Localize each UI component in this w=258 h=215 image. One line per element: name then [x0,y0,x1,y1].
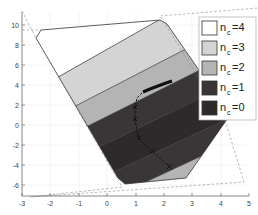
x-tick: -3 [19,200,25,207]
legend-swatch [202,21,217,35]
legend-value: =1 [232,81,245,93]
legend-sub: c [227,29,231,36]
x-tick: -2 [47,200,53,207]
y-tick: 8 [15,42,19,49]
legend-sub: c [227,69,231,76]
x-tick: 5 [247,200,251,207]
legend-value: =3 [232,41,245,53]
y-tick: -6 [13,182,19,189]
y-tick: 0 [15,122,19,129]
legend-sub: c [227,49,231,56]
chart: -3 -2 -1 0 1 2 3 4 5 10 8 6 4 2 0 -2 -4 … [0,0,258,215]
y-tick: 4 [15,82,19,89]
legend-value: =4 [232,21,245,33]
y-tick: 6 [15,62,19,69]
legend-label: n [220,21,226,33]
legend-label: n [220,41,226,53]
legend-label: n [220,61,226,73]
legend: n c =4 n c =3 n c =2 n c =1 n c =0 [199,17,256,120]
legend-label: n [220,81,226,93]
x-tick: 4 [219,200,223,207]
legend-swatch [202,61,217,75]
x-tick: 0 [105,200,109,207]
y-tick: -2 [13,142,19,149]
legend-swatch [202,81,217,95]
y-tick: 10 [11,22,19,29]
y-tick-labels: 10 8 6 4 2 0 -2 -4 -6 [11,22,19,189]
y-tick: -4 [13,162,19,169]
legend-sub: c [227,109,231,116]
legend-value: =2 [232,61,245,73]
x-tick: 3 [190,200,194,207]
x-tick: 1 [134,200,138,207]
x-tick-labels: -3 -2 -1 0 1 2 3 4 5 [19,200,251,207]
y-tick: 2 [15,102,19,109]
x-tick: 2 [162,200,166,207]
x-tick: -1 [76,200,82,207]
legend-swatch [202,101,217,115]
legend-swatch [202,41,217,55]
legend-label: n [220,101,226,113]
legend-sub: c [227,89,231,96]
legend-value: =0 [232,101,245,113]
